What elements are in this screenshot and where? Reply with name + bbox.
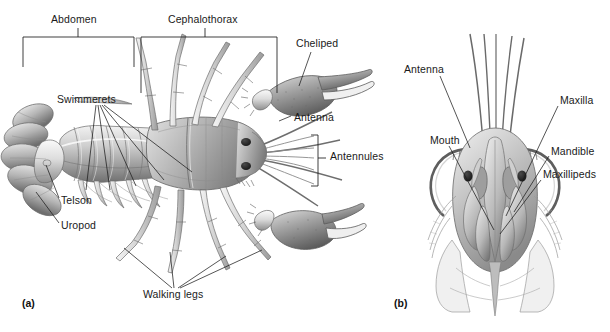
panel-a-artwork	[0, 34, 374, 273]
crayfish-illustration	[0, 0, 610, 332]
label-abdomen: Abdomen	[51, 14, 97, 25]
label-telson: Telson	[61, 195, 92, 206]
walking-legs-ventral	[116, 186, 271, 273]
label-cephalothorax: Cephalothorax	[168, 14, 238, 25]
sternum	[489, 262, 501, 316]
tail-fan	[0, 99, 67, 223]
label-antenna-b: Antenna	[404, 64, 444, 75]
walking-legs-dorsal	[136, 34, 264, 130]
label-antennules: Antennules	[330, 151, 384, 162]
abdomen-segments	[58, 126, 159, 183]
label-cheliped: Cheliped	[296, 38, 338, 49]
label-swimmerets: Swimmerets	[57, 94, 116, 105]
label-walking-legs: Walking legs	[143, 289, 203, 300]
label-mouth: Mouth	[430, 135, 460, 146]
cheliped-upper	[241, 69, 374, 116]
cephalothorax	[146, 117, 266, 190]
crayfish-anatomy-figure: Abdomen Cephalothorax Cheliped Swimmeret…	[0, 0, 610, 332]
label-maxillipeds: Maxillipeds	[543, 169, 596, 180]
label-mandible: Mandible	[551, 146, 594, 157]
panel-b-artwork	[428, 34, 562, 316]
label-maxilla: Maxilla	[560, 95, 593, 106]
eye-right-b	[518, 171, 527, 182]
label-antenna-a: Antenna	[294, 112, 334, 123]
cheliped-lower	[247, 203, 366, 249]
panel-caption-a: (a)	[22, 298, 35, 309]
label-uropod: Uropod	[61, 220, 96, 231]
panel-caption-b: (b)	[394, 298, 407, 309]
eye-left-b	[464, 171, 473, 182]
